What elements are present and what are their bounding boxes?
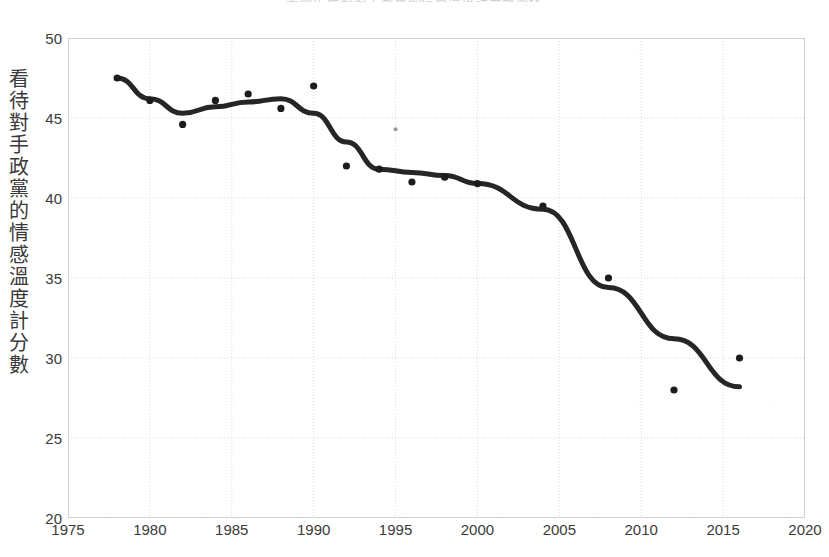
data-point <box>736 354 743 361</box>
data-point <box>605 274 612 281</box>
data-point <box>179 121 186 128</box>
axis-frame <box>69 39 805 518</box>
data-point <box>376 166 383 173</box>
x-tick-label: 1980 <box>133 521 166 538</box>
data-point <box>408 178 415 185</box>
y-tick-label: 50 <box>28 30 62 47</box>
x-tick-label: 1995 <box>379 521 412 538</box>
y-tick-label: 30 <box>28 350 62 367</box>
chart-figure: 美國民眾對對手政黨的情感溫度計分數變化 看待對手政黨的情感溫度計分數 20253… <box>0 0 829 557</box>
data-points <box>114 74 744 393</box>
data-point <box>343 162 350 169</box>
data-point <box>146 97 153 104</box>
x-tick-label: 2010 <box>625 521 658 538</box>
x-tick-label: 2020 <box>788 521 821 538</box>
data-point <box>474 180 481 187</box>
data-point <box>310 82 317 89</box>
y-tick-label: 40 <box>28 190 62 207</box>
data-point <box>539 202 546 209</box>
y-tick-label: 45 <box>28 110 62 127</box>
data-point <box>394 127 398 131</box>
data-point <box>441 174 448 181</box>
gridlines <box>68 38 805 518</box>
data-point <box>670 386 677 393</box>
x-tick-label: 1975 <box>51 521 84 538</box>
data-point <box>245 90 252 97</box>
y-tick-label: 25 <box>28 430 62 447</box>
data-point <box>212 97 219 104</box>
data-point <box>277 105 284 112</box>
chart-title: 美國民眾對對手政黨的情感溫度計分數變化 <box>0 0 829 2</box>
plot-svg <box>68 38 805 518</box>
x-tick-label: 1985 <box>215 521 248 538</box>
trend-line <box>117 78 739 387</box>
y-axis-tick-labels: 20253035404550 <box>26 0 62 557</box>
x-tick-label: 2015 <box>706 521 739 538</box>
data-point <box>114 74 121 81</box>
x-tick-label: 2005 <box>543 521 576 538</box>
plot-area <box>68 38 805 518</box>
x-axis-tick-labels: 1975198019851990199520002005201020152020 <box>0 521 829 545</box>
y-tick-label: 35 <box>28 270 62 287</box>
x-tick-label: 1990 <box>297 521 330 538</box>
x-tick-label: 2000 <box>461 521 494 538</box>
